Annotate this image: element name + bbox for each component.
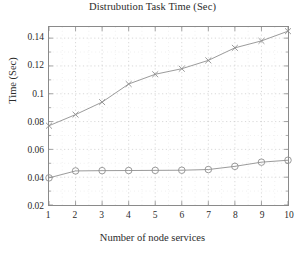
x-tick-label: 7: [199, 210, 219, 220]
x-tick-label: 2: [65, 210, 85, 220]
marker-cross: [73, 112, 79, 118]
x-tick-label: 8: [225, 210, 245, 220]
plot-area: [48, 26, 289, 206]
x-tick-label: 1: [38, 210, 58, 220]
series-lower-series: [46, 157, 292, 181]
x-tick-label: 9: [252, 210, 272, 220]
y-tick-label: 0.04: [0, 173, 44, 183]
series-upper-series: [46, 28, 291, 128]
marker-cross: [258, 38, 264, 44]
x-tick-label: 4: [118, 210, 138, 220]
x-tick-label: 3: [92, 210, 112, 220]
marker-cross: [126, 81, 132, 87]
x-tick-label: 10: [279, 210, 299, 220]
data-series: [49, 27, 288, 205]
x-tick-label: 6: [172, 210, 192, 220]
y-axis-label: Time (Sec): [7, 21, 18, 141]
marker-cross: [46, 123, 52, 129]
x-axis-tick-labels: 12345678910: [48, 210, 289, 224]
x-tick-label: 5: [145, 210, 165, 220]
chart-title: Distrubution Task Time (Sec): [0, 1, 305, 12]
x-axis-label: Number of node services: [0, 232, 305, 243]
marker-cross: [232, 45, 238, 51]
marker-cross: [99, 99, 105, 105]
marker-cross: [205, 57, 211, 63]
chart-page: Distrubution Task Time (Sec) 0.020.040.0…: [0, 0, 305, 261]
y-tick-label: 0.06: [0, 145, 44, 155]
